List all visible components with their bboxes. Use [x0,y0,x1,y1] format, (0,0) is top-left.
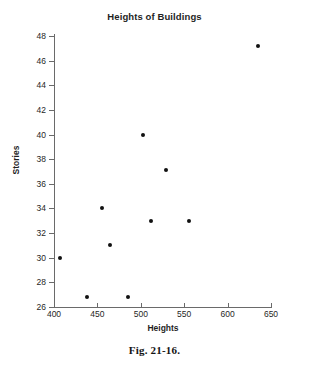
data-point [108,243,112,247]
data-point [100,206,104,210]
figure-caption: Fig. 21-16. [0,344,309,356]
y-tick-label: 34 [20,204,46,213]
y-tick-label: 28 [20,278,46,287]
data-point [58,256,62,260]
data-point [149,219,153,223]
x-axis-line [54,307,272,308]
figure-container: Heights of Buildings 2628303234363840424… [0,0,309,374]
plot-area [54,36,271,307]
x-tick-label: 400 [34,310,74,319]
y-tick-label: 32 [20,229,46,238]
chart-title: Heights of Buildings [0,11,309,22]
y-tick-label: 30 [20,254,46,263]
x-axis-title: Heights [54,323,272,333]
data-point [164,168,168,172]
x-tick-label: 550 [164,310,204,319]
x-tick-mark [271,303,272,308]
x-tick-label: 650 [251,310,291,319]
x-tick-label: 500 [121,310,161,319]
y-tick-label: 46 [20,57,46,66]
y-tick-label: 48 [20,32,46,41]
y-tick-label: 36 [20,180,46,189]
y-tick-label: 40 [20,131,46,140]
data-point [141,133,145,137]
data-point [187,219,191,223]
data-point [256,44,260,48]
data-point [85,295,89,299]
y-tick-label: 38 [20,155,46,164]
x-tick-label: 450 [77,310,117,319]
y-tick-label: 44 [20,81,46,90]
x-tick-label: 600 [208,310,248,319]
data-point [126,295,130,299]
y-tick-label: 42 [20,106,46,115]
y-axis-title: Stories [11,130,21,190]
